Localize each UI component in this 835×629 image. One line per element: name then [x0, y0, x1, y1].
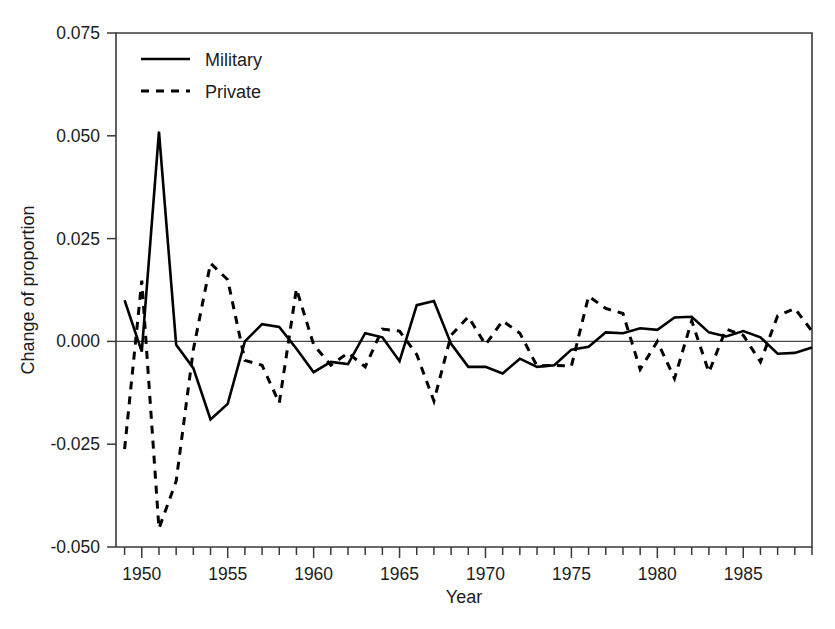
y-axis-title: Change of proportion: [18, 205, 38, 374]
plot-frame: [116, 33, 812, 547]
x-axis-minor-tick-marks: [125, 547, 812, 558]
x-tick-label: 1955: [208, 564, 247, 584]
x-tick-label: 1950: [122, 564, 161, 584]
legend: Military Private: [141, 50, 262, 102]
x-tick-label: 1980: [638, 564, 677, 584]
x-axis-title: Year: [446, 587, 482, 607]
y-axis-tick-labels: 0.0750.0500.0250.000-0.025-0.050: [50, 23, 100, 557]
x-axis-tick-labels: 19501955196019651970197519801985: [122, 564, 762, 584]
y-tick-label: -0.025: [50, 434, 100, 454]
series-line-military: [125, 132, 812, 420]
axis-frame: [116, 33, 812, 547]
y-axis-tick-marks: [107, 33, 116, 547]
y-tick-label: 0.000: [56, 331, 100, 351]
y-tick-label: 0.050: [56, 126, 100, 146]
y-tick-label: 0.075: [56, 23, 100, 43]
series-line-private: [125, 263, 812, 528]
legend-label-military: Military: [205, 50, 262, 70]
chart-figure: 0.0750.0500.0250.000-0.025-0.050 1950195…: [0, 0, 835, 629]
y-tick-label: -0.050: [50, 537, 100, 557]
x-tick-label: 1960: [294, 564, 333, 584]
y-tick-label: 0.025: [56, 229, 100, 249]
line-chart-canvas: 0.0750.0500.0250.000-0.025-0.050 1950195…: [0, 0, 835, 629]
x-tick-label: 1970: [466, 564, 505, 584]
legend-label-private: Private: [205, 82, 261, 102]
x-tick-label: 1975: [552, 564, 591, 584]
x-tick-label: 1985: [724, 564, 763, 584]
x-tick-label: 1965: [380, 564, 419, 584]
